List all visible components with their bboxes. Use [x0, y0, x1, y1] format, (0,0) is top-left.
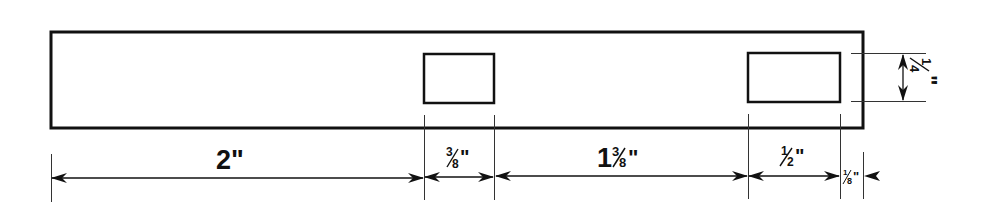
svg-text:8: 8 — [452, 157, 459, 171]
svg-text:": " — [795, 145, 804, 167]
label-1-4in: 1 4 " — [907, 58, 942, 85]
svg-text:4: 4 — [907, 65, 922, 73]
technical-drawing: 2" 3 8 " 1 3 8 " 1 2 " 1 8 " 1 4 " — [0, 0, 986, 216]
slot-2 — [748, 53, 840, 102]
svg-text:8: 8 — [847, 176, 852, 186]
svg-text:2: 2 — [787, 155, 794, 169]
svg-text:": " — [628, 145, 638, 170]
svg-text:2": 2" — [216, 145, 244, 175]
svg-text:": " — [853, 169, 859, 184]
label-1-3-8in: 1 3 8 " — [597, 143, 638, 173]
slot-1 — [424, 54, 494, 103]
label-1-8in: 1 8 " — [843, 168, 859, 186]
svg-text:8: 8 — [619, 155, 626, 170]
svg-text:": " — [917, 75, 942, 85]
label-2in: 2" — [216, 145, 244, 175]
label-1-2in: 1 2 " — [780, 144, 804, 169]
label-3-8in: 3 8 " — [446, 145, 469, 171]
part-outline — [51, 32, 863, 128]
arrowhead-1-8in — [864, 171, 880, 181]
dimension-lines — [52, 55, 903, 178]
svg-text:1: 1 — [597, 143, 612, 173]
svg-text:": " — [460, 146, 469, 168]
